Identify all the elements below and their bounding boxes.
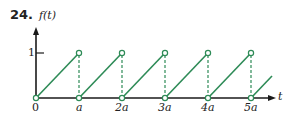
x-axis-arrow-icon — [268, 95, 276, 101]
y-axis-label: f(t) — [39, 9, 56, 22]
sawtooth-series — [36, 53, 272, 98]
x-tick-label-3a: 3a — [158, 101, 172, 114]
y-tick-label-1: 1 — [28, 46, 35, 59]
y-axis-arrow-icon — [33, 27, 39, 35]
problem-number: 24. — [10, 7, 33, 22]
x-tick-label-a: a — [76, 101, 83, 114]
sawtooth-figure: 24. f(t) 1 0 a 2a 3a 4a 5a t — [0, 0, 288, 117]
x-tick-label-4a: 4a — [201, 101, 215, 114]
x-tick-label-2a: 2a — [115, 101, 129, 114]
x-tick-label-0: 0 — [32, 101, 39, 114]
x-tick-label-5a: 5a — [244, 101, 258, 114]
x-axis-label: t — [278, 90, 282, 103]
jump-lines — [79, 55, 251, 98]
